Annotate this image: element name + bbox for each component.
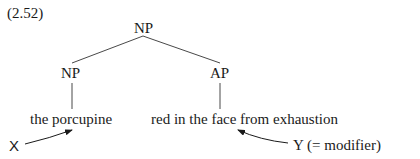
branch-right xyxy=(143,36,220,63)
left-node: NP xyxy=(61,66,80,81)
x-label: X xyxy=(9,138,19,153)
arrow-x xyxy=(25,130,72,144)
arrow-y xyxy=(238,130,288,143)
branch-left xyxy=(72,36,143,63)
example-number: (2.52) xyxy=(7,6,43,21)
y-label: Y (= modifier) xyxy=(293,138,381,153)
right-node: AP xyxy=(210,66,229,81)
right-leaf-text: red in the face from exhaustion xyxy=(151,112,338,127)
left-leaf-text: the porcupine xyxy=(30,112,112,127)
root-node: NP xyxy=(134,21,153,36)
